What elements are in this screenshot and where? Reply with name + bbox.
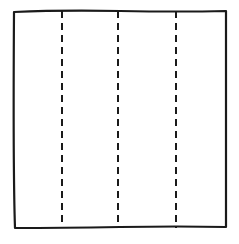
square-outline (14, 11, 226, 228)
diagram-canvas (0, 0, 239, 244)
fold-lines (62, 11, 176, 228)
folding-square-diagram (0, 0, 239, 244)
